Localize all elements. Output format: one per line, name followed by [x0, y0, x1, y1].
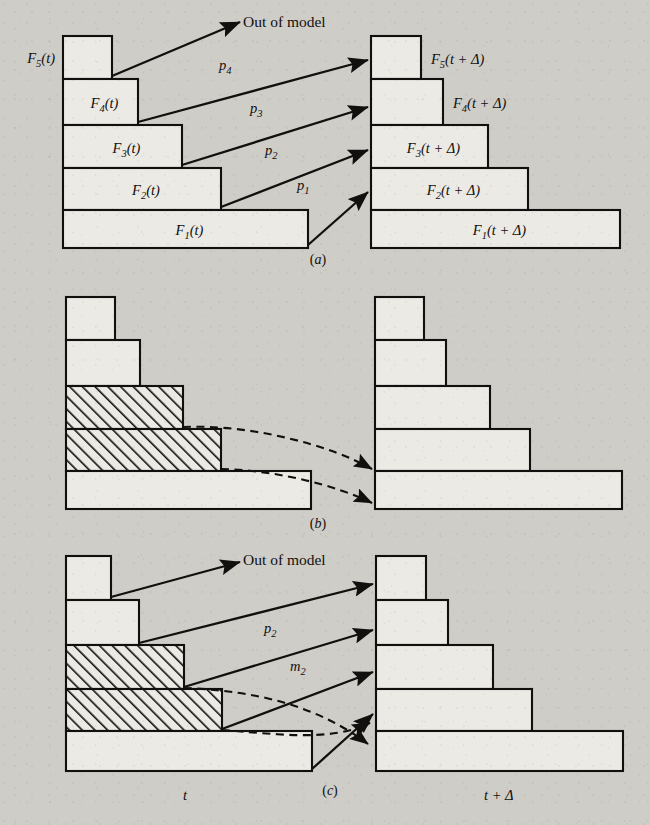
out-of-model-label: Out of model	[243, 13, 326, 30]
b-right-bar-1	[375, 471, 622, 509]
F4t	[63, 79, 138, 125]
c-m2-label: m2	[290, 658, 306, 677]
c-arrow-p2	[184, 630, 373, 687]
panel-letter-b: (b)	[310, 516, 327, 532]
c-left-bar-5	[66, 556, 111, 600]
F5t	[63, 36, 112, 79]
b-right-bar-3	[375, 386, 490, 429]
c-right-bar-3	[376, 645, 493, 689]
c-right-bar-2	[376, 689, 532, 731]
c-left-bar-3	[66, 645, 184, 689]
p2-arrow	[221, 150, 368, 207]
c-out-of-model-arrow	[111, 562, 240, 597]
c-arrow-to-f3	[222, 672, 373, 729]
b-left-bar-5	[66, 297, 115, 340]
label-F5td: F5(t + Δ)	[430, 51, 485, 70]
p3-label: p3	[249, 100, 263, 119]
c-left-bar-1	[66, 731, 312, 771]
b-left-bar-1	[66, 471, 311, 509]
F4td	[371, 79, 443, 125]
b-right-bar-4	[375, 340, 446, 386]
b-left-bar-3	[66, 386, 183, 429]
panel-b: (b)	[66, 297, 622, 532]
c-left-bar-4	[66, 600, 139, 645]
panel-a: F5(t)F4(t)F3(t)F2(t)F1(t)F5(t + Δ)F4(t +…	[26, 13, 620, 268]
F1t	[63, 210, 308, 248]
c-right-bar-4	[376, 600, 448, 645]
c-right-bar-5	[376, 556, 426, 600]
b-left-bar-4	[66, 340, 140, 386]
c-arrow-to-f5	[139, 584, 373, 643]
p1-label: p1	[296, 177, 310, 196]
label-F5t: F5(t)	[26, 50, 55, 69]
F3t	[63, 125, 182, 168]
b-right-bar-2	[375, 429, 530, 471]
c-out-of-model-label: Out of model	[243, 551, 326, 568]
figure-render-root: F5(t)F4(t)F3(t)F2(t)F1(t)F5(t + Δ)F4(t +…	[26, 13, 623, 803]
c-left-bar-2	[66, 689, 222, 731]
panel-letter-c: (c)	[322, 783, 338, 799]
axis-label-t: t	[183, 787, 188, 803]
b-left-bar-2	[66, 429, 221, 471]
b-right-bar-5	[375, 297, 424, 340]
p4-label: p4	[218, 57, 232, 76]
p2-label: p2	[264, 142, 278, 161]
staircase-transition-figure: F5(t)F4(t)F3(t)F2(t)F1(t)F5(t + Δ)F4(t +…	[0, 0, 650, 825]
F5td	[371, 36, 421, 79]
p1-arrow	[308, 192, 368, 245]
figure-page: F5(t)F4(t)F3(t)F2(t)F1(t)F5(t + Δ)F4(t +…	[0, 0, 650, 825]
c-right-bar-1	[376, 731, 623, 771]
label-F4td: F4(t + Δ)	[452, 95, 507, 114]
axis-label-t-plus-delta: t + Δ	[484, 787, 514, 803]
F2t	[63, 168, 221, 210]
panel-letter-a: (a)	[310, 252, 327, 268]
c-p2-label: p2	[263, 620, 277, 639]
panel-c: Out of modelp2m2(c)	[66, 551, 623, 799]
